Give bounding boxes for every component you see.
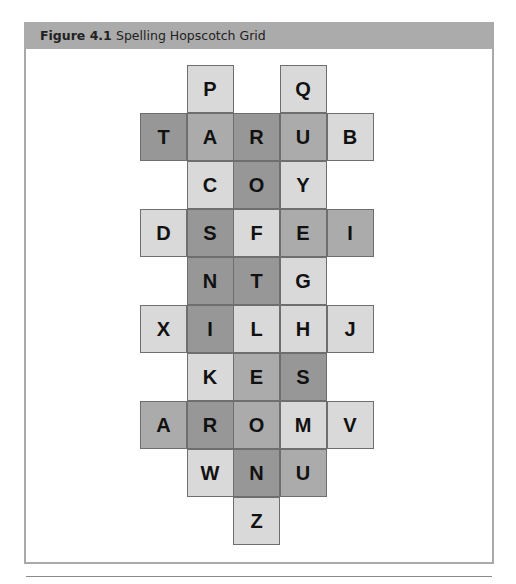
cell-letter: I [207, 318, 213, 341]
grid-cell: R [233, 113, 280, 161]
cell-letter: S [296, 366, 309, 389]
cell-letter: M [295, 414, 312, 437]
grid-cell: C [187, 161, 234, 209]
cell-letter: O [249, 174, 265, 197]
cell-letter: J [344, 318, 355, 341]
grid-cell: X [140, 305, 187, 353]
cell-letter: Q [295, 78, 311, 101]
grid-cell: M [280, 401, 327, 449]
grid-cell: Q [280, 65, 327, 113]
grid-cell: P [187, 65, 234, 113]
grid-cell: O [233, 401, 280, 449]
cell-letter: C [203, 174, 217, 197]
grid-cell: B [327, 113, 374, 161]
grid-cell: Z [233, 497, 280, 545]
bottom-rule [26, 576, 492, 577]
grid-cell: I [327, 209, 374, 257]
grid-cell: Y [280, 161, 327, 209]
cell-letter: T [250, 270, 262, 293]
grid-cell: S [280, 353, 327, 401]
cell-letter: O [249, 414, 265, 437]
cell-letter: T [157, 126, 169, 149]
cell-letter: V [343, 414, 356, 437]
hopscotch-grid: PQTARUBCOYDSFEINTGXILHJKESAROMVWNUZ [0, 0, 516, 584]
cell-letter: S [203, 222, 216, 245]
cell-letter: P [203, 78, 216, 101]
grid-cell: A [140, 401, 187, 449]
grid-cell: R [187, 401, 234, 449]
grid-cell: D [140, 209, 187, 257]
grid-cell: G [280, 257, 327, 305]
cell-letter: L [250, 318, 262, 341]
grid-cell: W [187, 449, 234, 497]
cell-letter: W [201, 462, 220, 485]
cell-letter: R [249, 126, 263, 149]
cell-letter: U [296, 462, 310, 485]
cell-letter: I [347, 222, 353, 245]
cell-letter: E [250, 366, 263, 389]
grid-cell: L [233, 305, 280, 353]
cell-letter: Z [250, 510, 262, 533]
cell-letter: N [249, 462, 263, 485]
cell-letter: A [156, 414, 170, 437]
cell-letter: R [203, 414, 217, 437]
grid-cell: N [187, 257, 234, 305]
cell-letter: A [203, 126, 217, 149]
grid-cell: O [233, 161, 280, 209]
grid-cell: E [233, 353, 280, 401]
grid-cell: N [233, 449, 280, 497]
cell-letter: U [296, 126, 310, 149]
grid-cell: T [233, 257, 280, 305]
cell-letter: B [343, 126, 357, 149]
cell-letter: Y [296, 174, 309, 197]
grid-cell: H [280, 305, 327, 353]
grid-cell: K [187, 353, 234, 401]
grid-cell: U [280, 113, 327, 161]
grid-cell: S [187, 209, 234, 257]
grid-cell: I [187, 305, 234, 353]
cell-letter: K [203, 366, 217, 389]
grid-cell: T [140, 113, 187, 161]
grid-cell: J [327, 305, 374, 353]
grid-cell: V [327, 401, 374, 449]
grid-cell: F [233, 209, 280, 257]
cell-letter: D [156, 222, 170, 245]
cell-letter: H [296, 318, 310, 341]
grid-cell: E [280, 209, 327, 257]
grid-cell: U [280, 449, 327, 497]
cell-letter: N [203, 270, 217, 293]
cell-letter: F [250, 222, 262, 245]
cell-letter: G [295, 270, 311, 293]
grid-cell: A [187, 113, 234, 161]
cell-letter: E [296, 222, 309, 245]
cell-letter: X [157, 318, 170, 341]
